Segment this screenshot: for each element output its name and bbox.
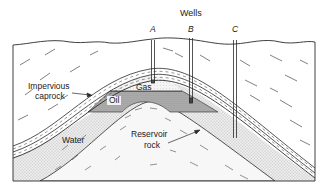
caprock-label-line1: Impervious <box>28 82 70 91</box>
oil-label: Oil <box>107 96 121 105</box>
wells-title: Wells <box>180 9 202 18</box>
well-label-b: B <box>188 25 194 34</box>
ground-block <box>13 48 315 181</box>
caprock-label-line2: caprock <box>35 92 65 101</box>
reservoir-label-line1: Reservoir <box>131 130 167 139</box>
water-label: Water <box>62 136 84 145</box>
well-label-a: A <box>150 25 156 34</box>
well-label-c: C <box>232 25 238 34</box>
gas-label: Gas <box>136 83 152 92</box>
reservoir-label-line2: rock <box>144 141 160 150</box>
caprock-arrow <box>72 93 92 97</box>
